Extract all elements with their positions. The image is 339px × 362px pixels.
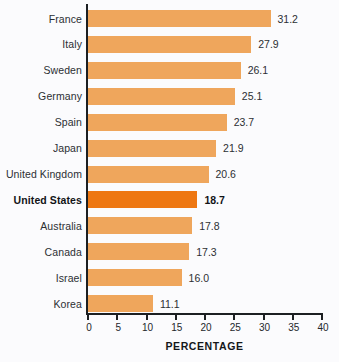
bar-value-label: 23.7: [234, 116, 254, 128]
x-tick: [292, 313, 294, 320]
bar: [88, 295, 153, 312]
x-tick: [87, 313, 89, 320]
x-tick: [321, 313, 323, 320]
bar: [88, 10, 271, 27]
x-tick-label: 5: [106, 322, 130, 334]
bar: [88, 243, 189, 260]
bar: [88, 269, 182, 286]
category-label: Germany: [0, 90, 82, 102]
bar-value-label: 17.3: [196, 246, 216, 258]
bar-value-label: 18.7: [204, 194, 224, 206]
x-tick-label: 25: [223, 322, 247, 334]
category-label: Italy: [0, 38, 82, 50]
bar-value-label: 25.1: [242, 90, 262, 102]
chart-row: Canada17.3: [0, 243, 339, 260]
chart-plot-area: France31.2Italy27.9Sweden26.1Germany25.1…: [0, 0, 339, 313]
bar: [88, 140, 216, 157]
y-axis-line: [86, 4, 88, 314]
chart-row: United States18.7: [0, 191, 339, 208]
category-label: France: [0, 13, 82, 25]
chart-row: France31.2: [0, 10, 339, 27]
category-label: Korea: [0, 298, 82, 310]
bar-value-label: 26.1: [248, 64, 268, 76]
bar-chart: France31.2Italy27.9Sweden26.1Germany25.1…: [0, 0, 339, 362]
x-tick: [204, 313, 206, 320]
chart-row: Australia17.8: [0, 217, 339, 234]
chart-row: Korea11.1: [0, 295, 339, 312]
x-tick: [175, 313, 177, 320]
chart-row: Sweden26.1: [0, 62, 339, 79]
chart-row: Israel16.0: [0, 269, 339, 286]
bar: [88, 191, 197, 208]
bar: [88, 36, 251, 53]
chart-row: Spain23.7: [0, 114, 339, 131]
category-label: Japan: [0, 142, 82, 154]
category-label: Sweden: [0, 64, 82, 76]
category-label: Australia: [0, 220, 82, 232]
bar-value-label: 17.8: [199, 220, 219, 232]
bar: [88, 62, 241, 79]
bar-value-label: 27.9: [258, 38, 278, 50]
category-label: Israel: [0, 272, 82, 284]
x-tick-label: 35: [282, 322, 306, 334]
x-tick-label: 30: [253, 322, 277, 334]
x-tick: [233, 313, 235, 320]
x-tick-label: 10: [136, 322, 160, 334]
bar: [88, 217, 192, 234]
bar-value-label: 16.0: [189, 272, 209, 284]
chart-row: Italy27.9: [0, 36, 339, 53]
category-label: United Kingdom: [0, 168, 82, 180]
x-tick-label: 15: [165, 322, 189, 334]
bar-value-label: 31.2: [278, 13, 298, 25]
x-tick: [116, 313, 118, 320]
bar-value-label: 11.1: [160, 298, 180, 310]
x-tick-label: 0: [77, 322, 101, 334]
x-tick-label: 40: [311, 322, 335, 334]
bar: [88, 88, 235, 105]
category-label: United States: [0, 194, 82, 206]
x-tick-label: 20: [194, 322, 218, 334]
x-axis-title: PERCENTAGE: [86, 340, 323, 352]
x-tick: [263, 313, 265, 320]
bar-value-label: 20.6: [216, 168, 236, 180]
bar: [88, 114, 227, 131]
category-label: Spain: [0, 116, 82, 128]
bar: [88, 166, 209, 183]
chart-row: Japan21.9: [0, 140, 339, 157]
bar-value-label: 21.9: [223, 142, 243, 154]
chart-row: United Kingdom20.6: [0, 166, 339, 183]
x-tick: [146, 313, 148, 320]
category-label: Canada: [0, 246, 82, 258]
chart-row: Germany25.1: [0, 88, 339, 105]
